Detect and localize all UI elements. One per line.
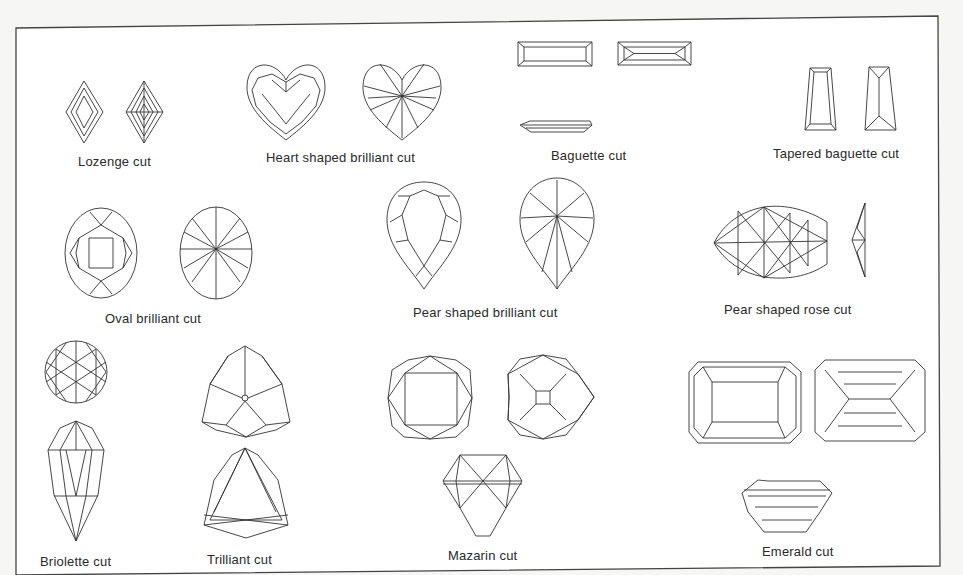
label-pear-brilliant-cut: Pear shaped brilliant cut <box>413 305 557 320</box>
label-pear-rose-cut: Pear shaped rose cut <box>724 302 852 317</box>
label-mazarin-cut: Mazarin cut <box>448 548 517 563</box>
label-lozenge-cut: Lozenge cut <box>78 154 151 169</box>
gem-cuts-plate <box>0 0 963 575</box>
label-tapered-baguette-cut: Tapered baguette cut <box>773 146 899 161</box>
label-oval-cut: Oval brilliant cut <box>105 311 201 326</box>
label-heart-cut: Heart shaped brilliant cut <box>266 150 415 165</box>
label-emerald-cut: Emerald cut <box>762 544 834 559</box>
label-trilliant-cut: Trilliant cut <box>207 552 272 567</box>
label-baguette-cut: Baguette cut <box>551 148 626 163</box>
label-briolette-cut: Briolette cut <box>40 554 111 569</box>
plate-border <box>16 16 940 575</box>
